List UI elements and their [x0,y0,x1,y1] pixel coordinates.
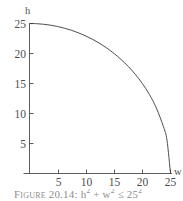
x-tick-label-10: 10 [81,176,93,188]
y-axis-label: h [25,5,31,16]
x-tick-label-5: 5 [56,176,62,188]
y-tick-label-15: 15 [15,78,27,90]
quarter-circle-plot: 25 20 15 10 5 5 10 15 20 25 h w [0,0,183,201]
y-tick-label-10: 10 [15,108,27,120]
figure-caption: Figure 20.14: h2 + w2 ≤ 252 [0,189,183,201]
x-axis-label: w [174,166,182,177]
plot-background [0,0,183,189]
x-tick-label-20: 20 [137,176,149,188]
x-tick-label-25: 25 [165,176,177,188]
figure-caption-label: Figure 20.14: [14,189,78,200]
y-tick-label-5: 5 [20,138,26,150]
figure-container: 25 20 15 10 5 5 10 15 20 25 h w Figure 2… [0,0,183,201]
y-tick-label-25: 25 [15,18,27,30]
y-tick-label-20: 20 [15,48,27,60]
x-tick-label-15: 15 [109,176,121,188]
figure-caption-text: Figure 20.14: h2 + w2 ≤ 252 [14,189,142,200]
figure-caption-formula: h2 + w2 ≤ 252 [81,189,143,200]
